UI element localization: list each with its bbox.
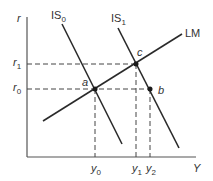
- point-a-label: a: [82, 76, 88, 88]
- is1-label: IS1: [111, 12, 126, 27]
- x-axis-label: Y: [193, 162, 201, 174]
- is0-curve: [62, 24, 122, 144]
- y2-label: y2: [145, 162, 157, 177]
- lm-curve: [43, 34, 182, 121]
- point-c: [134, 62, 139, 67]
- y0-label: y0: [90, 162, 102, 177]
- lm-label: LM: [185, 27, 200, 39]
- point-c-label: c: [137, 46, 143, 58]
- r0-label: r0: [13, 81, 22, 96]
- point-a: [93, 87, 98, 92]
- r1-label: r1: [13, 56, 22, 71]
- point-b-label: b: [158, 84, 164, 96]
- y-axis-label: r: [17, 12, 22, 24]
- is0-label: IS0: [51, 9, 66, 24]
- islm-diagram: r Y IS0 IS1 LM a c b r1 r0 y0 y1 y2: [0, 0, 213, 181]
- point-b: [148, 87, 153, 92]
- y1-label: y1: [131, 162, 143, 177]
